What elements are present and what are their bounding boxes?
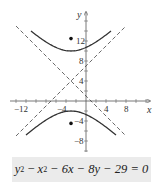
tick-label-y-4: 4 [79, 76, 84, 86]
y-axis-label: y [76, 9, 82, 20]
tick-label-y-8: 8 [79, 56, 84, 66]
upper-branch [31, 31, 111, 51]
eq-rest: − 6x − 8y − 29 = 0 [47, 162, 148, 177]
tick-label-x--12: −12 [14, 104, 28, 114]
tick-label-y--4: −4 [74, 116, 84, 126]
x-axis-label: x [146, 104, 152, 115]
tick-label-y--8: −8 [74, 136, 84, 146]
tick-label-x-4: 4 [104, 104, 109, 114]
tick-label-y-12: 12 [76, 36, 85, 46]
equation-box: y2 − x2 − 6x − 8y − 29 = 0 [12, 157, 151, 182]
eq-minus: − [24, 162, 37, 177]
tick-label-x--4: −4 [57, 104, 67, 114]
focus-upper [69, 37, 73, 41]
tick-label-x-8: 8 [124, 104, 129, 114]
focus-lower [69, 122, 73, 126]
hyperbola-graph: y x −12 −4 4 8 12 8 4 −4 −8 [0, 0, 166, 156]
